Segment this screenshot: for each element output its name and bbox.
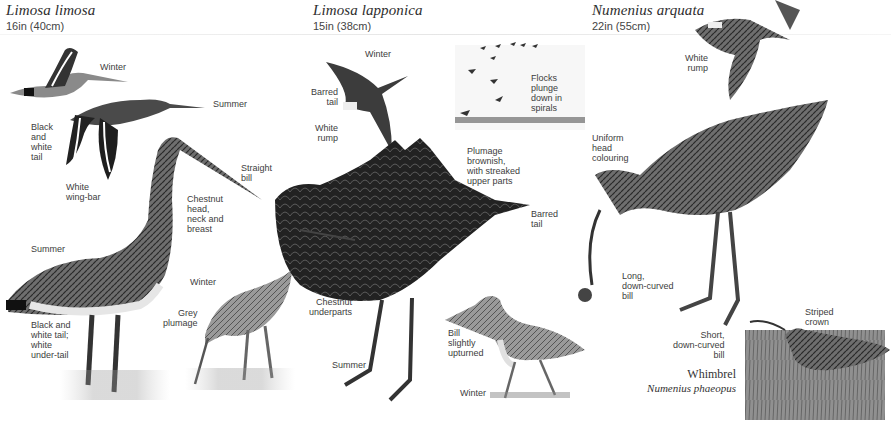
label-batg-barred-tail-flight: Barred tail [311,87,338,107]
label-curlew-bill: Long, down-curved bill [622,271,674,301]
label-curlew-white-rump: White rump [685,53,708,73]
bird-illustrations [0,0,891,423]
label-curlew-head: Uniform head colouring [592,133,629,163]
label-btg-under-tail: Black and white tail; white under-tail [31,320,71,360]
label-btg-winter: Winter [190,277,216,287]
label-batg-winter: Winter [460,388,486,398]
label-batg-barred-tail: Barred tail [531,209,558,229]
label-btg-summer-flight: Summer [213,99,247,109]
label-batg-underparts: Chestnut underparts [309,297,352,317]
black-tailed-godwit-summer-flight [66,100,205,181]
label-btg-grey-plumage: Grey plumage [163,308,198,328]
black-tailed-godwit-winter-flight [10,48,128,98]
bar-tailed-godwit-flock-vignette [455,42,585,130]
whimbrel-common-name: Whimbrel [675,368,736,381]
label-btg-winter-flight: Winter [100,62,126,72]
whimbrel-in-grass [745,321,890,420]
label-batg-bill: Bill slightly upturned [448,328,484,358]
label-whimbrel-crown: Striped crown [805,307,834,327]
label-btg-tail: Black and white tail [31,122,53,162]
label-batg-plumage: Plumage brownish, with streaked upper pa… [467,146,520,186]
whimbrel-scientific-name: Numenius phaeopus [640,382,736,395]
label-batg-flocks: Flocks plunge down in spirals [531,73,562,113]
label-btg-head: Chestnut head, neck and breast [187,194,224,234]
bar-tailed-godwit-winter-flight [326,62,408,152]
label-whimbrel-bill: Short, down-curved bill [673,330,725,360]
label-batg-summer: Summer [332,360,366,370]
label-btg-summer: Summer [31,244,65,254]
black-tailed-godwit-winter-feeding [185,270,295,390]
label-btg-bill: Straight bill [241,163,272,183]
curlew-flight [695,0,800,100]
label-btg-wing-bar: White wing-bar [66,182,101,202]
black-tailed-godwit-summer-standing [6,137,262,400]
label-batg-winter-flight: Winter [365,49,391,59]
label-batg-white-rump: White rump [315,123,338,143]
